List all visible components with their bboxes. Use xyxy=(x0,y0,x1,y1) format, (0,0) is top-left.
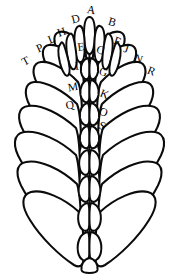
apex-pinna-A xyxy=(84,17,95,54)
rachis-lobe-chain xyxy=(78,58,102,273)
label-D: D xyxy=(70,12,81,26)
label-M: M xyxy=(67,80,79,94)
rachis-lobe-left-E xyxy=(81,58,90,79)
rachis-lobe-right-C xyxy=(89,58,98,79)
rachis-lobe-left-9 xyxy=(79,150,89,175)
rachis-lobe-terminal xyxy=(81,258,97,273)
label-A: A xyxy=(86,3,97,16)
rachis-lobe-right-9 xyxy=(89,150,99,175)
label-B: B xyxy=(107,15,118,29)
label-T: T xyxy=(19,54,31,68)
label-R: R xyxy=(146,64,158,78)
fern-frond-illustration: A B C D E F G H I J K L M N O P Q R S T xyxy=(0,0,179,280)
figure-root: A B C D E F G H I J K L M N O P Q R S T xyxy=(0,0,179,280)
